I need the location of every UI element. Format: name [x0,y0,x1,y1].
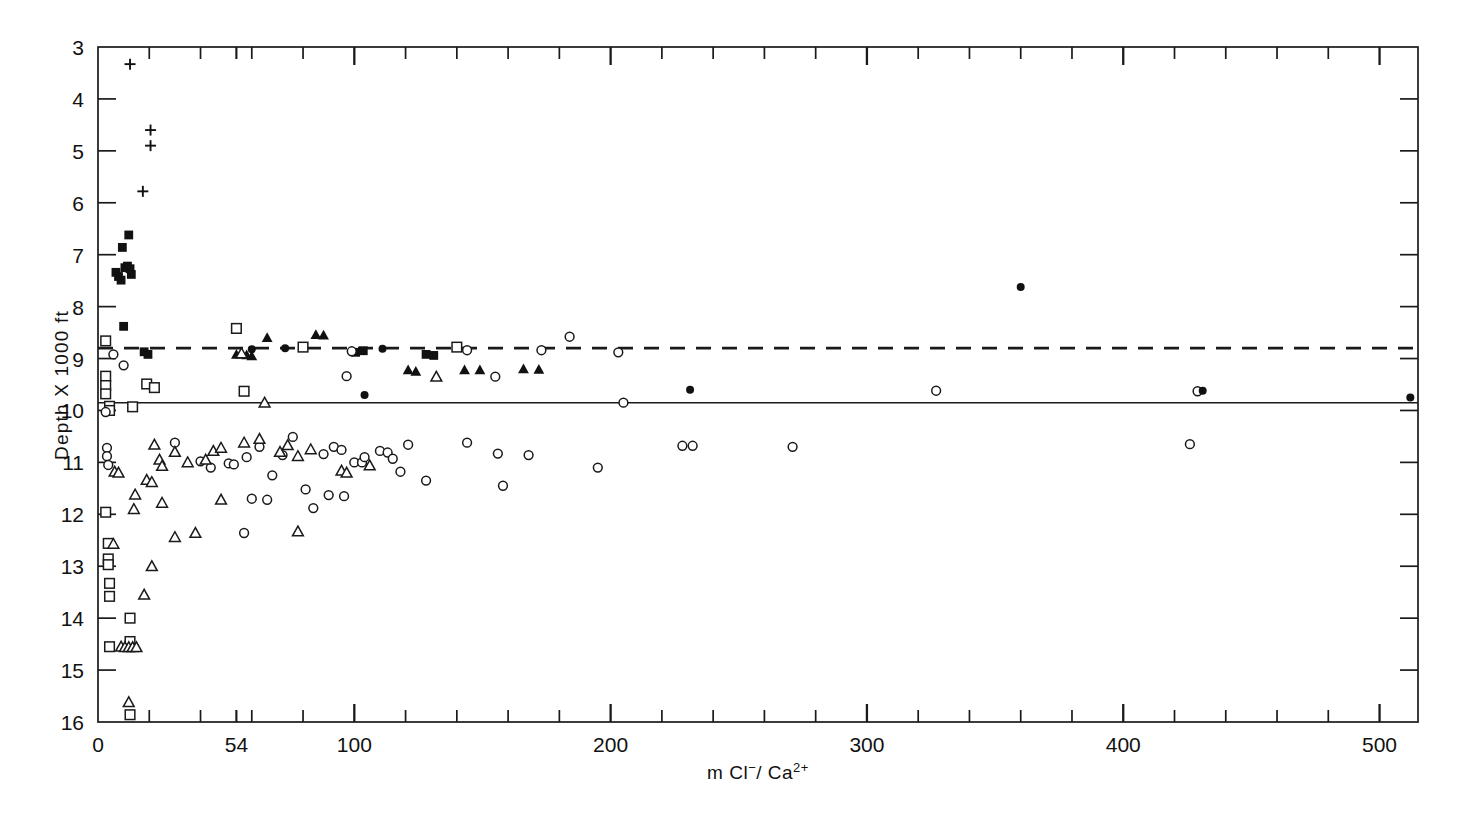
marker-square [429,351,438,360]
marker-plus [145,140,156,151]
marker-square [422,350,431,359]
marker-circle [109,350,118,359]
x-tick-label: 400 [1106,733,1141,756]
marker-triangle [190,528,201,538]
y-tick-label: 15 [61,659,84,682]
marker-triangle [169,532,180,542]
marker-circle [104,461,113,470]
x-tick-label: 100 [337,733,372,756]
y-tick-label: 4 [72,88,84,111]
marker-circle [101,408,110,417]
marker-circle [932,386,941,395]
marker-triangle [305,444,316,454]
marker-triangle [216,494,227,504]
marker-square [105,642,115,652]
marker-circle [340,492,349,501]
marker-circle [240,529,249,538]
marker-circle [242,453,251,462]
marker-square [232,324,242,334]
y-tick-label: 3 [72,36,84,59]
marker-triangle [293,451,304,461]
marker-square [150,383,160,393]
marker-circle [422,476,431,485]
marker-circle [119,361,128,370]
marker-triangle [130,489,141,499]
marker-circle [619,398,628,407]
x-tick-label: 0 [92,733,104,756]
marker-circle [491,372,500,381]
marker-circle [301,485,310,494]
marker-triangle [128,504,139,514]
marker-triangle [139,589,150,599]
series-open-circle [101,332,1202,537]
y-tick-label: 7 [72,244,84,267]
y-axis-title-label: Depth X 1000 ft [51,310,72,460]
marker-square [119,322,128,331]
marker-square [298,342,308,352]
marker-circle [324,491,333,500]
marker-square [127,270,136,279]
marker-square [117,276,126,285]
marker-circle [1185,440,1194,449]
y-tick-label: 14 [61,607,85,630]
svg-text:m Cl−/ Ca2+: m Cl−/ Ca2+ [707,760,809,783]
marker-circle [1199,387,1207,395]
marker-circle [678,441,687,450]
marker-circle [593,463,602,472]
marker-circle [337,446,346,455]
x-tick-label: 200 [593,733,628,756]
marker-triangle [518,364,529,374]
marker-triangle [169,447,180,457]
y-tick-label: 6 [72,192,84,215]
marker-circle [688,441,697,450]
marker-triangle [431,371,442,381]
marker-circle [1406,393,1414,401]
marker-circle [281,344,289,352]
x-axis-ticks-bottom [149,704,1379,722]
marker-triangle [318,330,329,340]
x-tick-label: 54 [225,733,249,756]
marker-circle [361,391,369,399]
marker-plus [137,186,148,197]
marker-square [105,592,115,602]
marker-circle [268,471,277,480]
plot-frame [98,47,1418,722]
marker-circle [788,442,797,451]
marker-square [125,613,135,623]
x-tick-label: 300 [849,733,884,756]
marker-square [144,350,153,359]
series-open-triangle [108,348,442,707]
marker-square [103,560,113,570]
marker-square [359,346,368,355]
marker-circle [309,504,318,513]
marker-circle [499,481,508,490]
y-tick-label: 12 [61,503,84,526]
series-filled-circle [248,283,1415,402]
marker-square [125,710,135,720]
marker-triangle [182,457,193,467]
data-point-layer [101,59,1414,720]
marker-triangle [459,365,470,375]
series-filled-triangle [231,329,544,376]
marker-circle [103,443,112,452]
marker-circle [379,345,387,353]
marker-circle [565,332,574,341]
y-axis-ticks-right [1400,99,1418,670]
series-plus [125,59,157,197]
y-tick-label: 8 [72,296,84,319]
marker-triangle [403,365,414,375]
marker-square [101,371,111,381]
marker-circle [463,346,472,355]
chart-figure: 054100200300400500 345678910111213141516… [0,0,1470,815]
marker-circle [404,440,413,449]
marker-triangle [475,365,486,375]
marker-triangle [157,497,168,507]
marker-circle [463,438,472,447]
marker-circle [686,386,694,394]
marker-triangle [123,697,134,707]
marker-triangle [533,364,544,374]
y-tick-label: 16 [61,711,84,734]
marker-square [101,389,111,399]
marker-square [118,243,127,252]
marker-circle [360,453,369,462]
